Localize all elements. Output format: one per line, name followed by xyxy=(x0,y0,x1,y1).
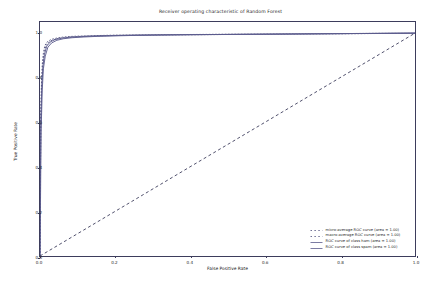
legend-swatch-icon xyxy=(310,240,323,245)
y-tick-label: 0.0 xyxy=(36,255,43,260)
x-tick xyxy=(191,256,192,258)
x-tick-label: 0.4 xyxy=(187,260,194,265)
roc-curves xyxy=(40,22,415,256)
legend-label: micro-average ROC curve (area = 1.00) xyxy=(326,229,399,233)
y-tick-label: 0.2 xyxy=(36,210,43,215)
x-tick-label: 0.2 xyxy=(111,260,118,265)
legend-swatch-icon xyxy=(310,228,323,233)
y-tick-label: 0.4 xyxy=(36,165,43,170)
x-tick-label: 0.0 xyxy=(36,260,43,265)
legend-label: ROC curve of class ham (area = 1.00) xyxy=(326,240,396,244)
x-tick-label: 1.0 xyxy=(413,260,420,265)
y-tick-label: 1.0 xyxy=(36,30,43,35)
x-tick-label: 0.6 xyxy=(262,260,269,265)
x-tick-label: 0.8 xyxy=(337,260,344,265)
y-tick-label: 0.8 xyxy=(36,75,43,80)
x-axis-label: False Positive Rate xyxy=(39,266,416,271)
chance-diagonal-line xyxy=(40,33,415,256)
y-tick-label: 0.6 xyxy=(36,120,43,125)
y-axis-label: True Positive Rate xyxy=(13,97,18,187)
x-tick xyxy=(417,256,418,258)
x-tick xyxy=(115,256,116,258)
legend-item: ROC curve of class spam (area = 1.00) xyxy=(310,245,400,251)
chart-title: Receiver operating characteristic of Ran… xyxy=(0,9,441,14)
plot-axes xyxy=(39,21,416,257)
matplotlib-figure: Receiver operating characteristic of Ran… xyxy=(0,0,441,287)
x-tick xyxy=(342,256,343,258)
legend-swatch-icon xyxy=(310,234,323,239)
legend-label: macro-average ROC curve (area = 1.00) xyxy=(326,234,401,238)
legend-swatch-icon xyxy=(310,246,323,251)
chart-legend: micro-average ROC curve (area = 1.00)mac… xyxy=(308,226,402,253)
x-tick xyxy=(266,256,267,258)
legend-label: ROC curve of class spam (area = 1.00) xyxy=(326,246,398,250)
plot-surface xyxy=(40,22,415,256)
